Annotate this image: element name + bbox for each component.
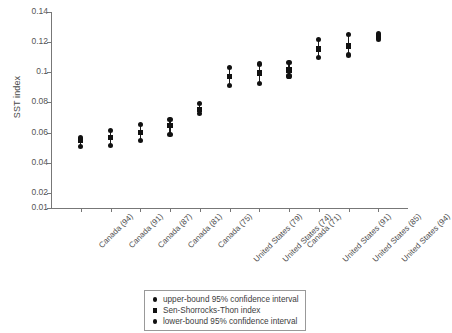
x-tick-mark	[259, 208, 260, 212]
legend-item: Sen-Shorrocks-Thon index	[150, 305, 299, 316]
lower-bound-marker	[257, 81, 262, 86]
lower-bound-marker	[167, 132, 172, 137]
legend-circle-icon	[150, 297, 160, 301]
index-marker	[138, 130, 143, 135]
index-marker	[227, 74, 232, 79]
index-marker	[167, 123, 172, 128]
upper-bound-marker	[346, 32, 351, 37]
upper-bound-marker	[197, 101, 202, 106]
legend-square-icon	[150, 308, 160, 312]
plot-area: 0.010.020.040.060.080.10.120.14	[51, 12, 408, 208]
index-marker	[78, 138, 83, 143]
lower-bound-marker	[197, 111, 202, 116]
index-marker	[376, 34, 381, 39]
index-marker	[108, 135, 113, 140]
lower-bound-marker	[286, 73, 291, 78]
upper-bound-marker	[227, 65, 232, 70]
y-axis-line	[51, 12, 52, 208]
y-tick-label: 0.1	[36, 66, 48, 76]
x-tick-mark	[140, 208, 141, 212]
x-tick-mark	[289, 208, 290, 212]
x-tick-mark	[200, 208, 201, 212]
index-marker	[286, 67, 291, 72]
index-marker	[197, 107, 202, 112]
legend-label: Sen-Shorrocks-Thon index	[163, 305, 260, 316]
legend-item: lower-bound 95% confidence interval	[150, 316, 299, 327]
lower-bound-marker	[138, 138, 143, 143]
x-tick-mark	[81, 208, 82, 212]
y-tick-label: 0.06	[31, 127, 48, 137]
upper-bound-marker	[257, 61, 262, 66]
index-marker	[316, 46, 321, 51]
legend-item: upper-bound 95% confidence interval	[150, 294, 299, 305]
lower-bound-marker	[108, 143, 113, 148]
lower-bound-marker	[346, 52, 351, 57]
chart-legend: upper-bound 95% confidence intervalSen-S…	[144, 290, 306, 331]
upper-bound-marker	[316, 37, 321, 42]
y-tick-label: 0.14	[31, 6, 48, 16]
upper-bound-marker	[138, 122, 143, 127]
index-marker	[346, 43, 351, 48]
x-axis-label: United States (79)	[251, 212, 303, 264]
x-tick-mark	[319, 208, 320, 212]
y-tick-label: 0.04	[31, 157, 48, 167]
y-tick-label: 0.12	[31, 36, 48, 46]
lower-bound-marker	[78, 144, 83, 149]
y-tick-label: 0.02	[31, 187, 48, 197]
upper-bound-marker	[286, 60, 291, 65]
x-tick-mark	[111, 208, 112, 212]
x-tick-mark	[230, 208, 231, 212]
x-tick-mark	[378, 208, 379, 212]
legend-label: lower-bound 95% confidence interval	[163, 316, 297, 327]
lower-bound-marker	[316, 55, 321, 60]
x-tick-mark	[349, 208, 350, 212]
index-marker	[257, 70, 262, 75]
x-tick-mark	[170, 208, 171, 212]
y-axis-title: SST index	[12, 52, 22, 142]
upper-bound-marker	[108, 128, 113, 133]
y-tick-label: 0.01	[31, 202, 48, 212]
legend-label: upper-bound 95% confidence interval	[163, 294, 299, 305]
lower-bound-marker	[227, 83, 232, 88]
y-tick-label: 0.08	[31, 96, 48, 106]
legend-circle-icon	[150, 319, 160, 323]
upper-bound-marker	[167, 117, 172, 122]
